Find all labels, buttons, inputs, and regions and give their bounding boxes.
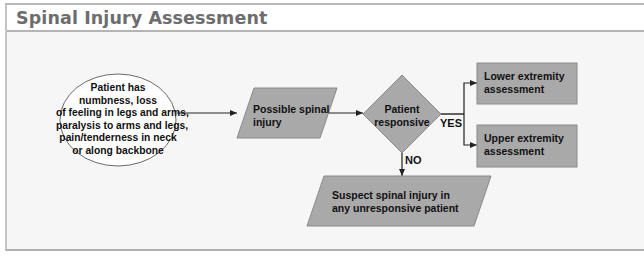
lower-node-text: Lower extremity assessment <box>484 70 579 95</box>
suspect-node-text: Suspect spinal injury in any unresponsiv… <box>332 189 482 214</box>
possible-line-1: Possible spinal <box>253 103 343 116</box>
start-line-1: Patient has <box>56 82 180 95</box>
lower-line-1: Lower extremity <box>484 70 579 83</box>
upper-node-text: Upper extremity assessment <box>484 132 579 157</box>
upper-line-2: assessment <box>484 145 579 158</box>
start-line-3: of feeling in legs and arms, <box>56 107 180 120</box>
start-line-6: or along backbone <box>56 145 180 158</box>
edge-label-no: NO <box>405 154 422 166</box>
upper-line-1: Upper extremity <box>484 132 579 145</box>
decision-line-2: responsive <box>362 116 442 129</box>
edge-yes-to-upper <box>464 114 477 145</box>
possible-line-2: injury <box>253 116 343 129</box>
start-line-2: numbness, loss <box>56 95 180 108</box>
decision-line-1: Patient <box>362 103 442 116</box>
decision-node-text: Patient responsive <box>362 103 442 128</box>
start-line-5: pain/tenderness in neck <box>56 132 180 145</box>
possible-node-text: Possible spinal injury <box>253 103 343 128</box>
suspect-line-2: any unresponsive patient <box>332 202 482 215</box>
suspect-line-1: Suspect spinal injury in <box>332 189 482 202</box>
edge-yes-to-lower <box>464 83 477 114</box>
lower-line-2: assessment <box>484 83 579 96</box>
start-line-4: paralysis to arms and legs, <box>56 120 180 133</box>
start-node-text: Patient has numbness, loss of feeling in… <box>56 82 180 158</box>
edge-label-yes: YES <box>440 117 462 129</box>
